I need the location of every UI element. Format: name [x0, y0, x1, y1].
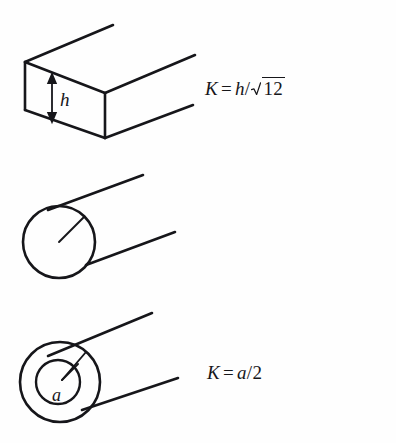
- solid-cylinder-drawing: [0, 150, 396, 290]
- radicand-1: 12: [262, 77, 285, 100]
- height-label: h: [60, 90, 70, 109]
- tube-bottom-tangent: [82, 378, 178, 410]
- figure-row-hollow-tube: a b K=(a2+b2)/2: [0, 290, 396, 443]
- bar-bottom-front-left-edge: [25, 110, 105, 138]
- bar-bottom-right-edge: [105, 105, 193, 138]
- tube-inner-radius-line: [62, 364, 78, 380]
- formula-lhs-1: K: [205, 78, 218, 99]
- formula-numerator-1: h: [235, 78, 245, 99]
- figure-row-rectangular-bar: h K=h/12: [0, 0, 396, 150]
- radius-of-gyration-figure: h K=h/12 a K=a/2: [0, 0, 396, 443]
- bar-top-back-edge: [25, 25, 113, 62]
- formula-equals-1: =: [218, 78, 235, 99]
- cylinder-bottom-tangent: [86, 232, 175, 265]
- cylinder-radius-line: [59, 217, 84, 242]
- figure-row-solid-cylinder: a K=a/2: [0, 150, 396, 290]
- tube-outer-circle: [20, 342, 100, 422]
- radical-1: 12: [251, 77, 285, 100]
- tube-top-tangent: [48, 313, 152, 356]
- formula-slash-1: /: [245, 78, 251, 99]
- formula-rectangular-bar: K=h/12: [205, 77, 285, 100]
- hollow-tube-drawing: [0, 290, 396, 443]
- cylinder-top-tangent: [48, 175, 143, 210]
- radical-sign-icon: [251, 81, 261, 94]
- bar-top-right-edge: [105, 55, 195, 93]
- rectangular-bar-drawing: [0, 0, 396, 150]
- height-dimension-arrow: [48, 74, 56, 122]
